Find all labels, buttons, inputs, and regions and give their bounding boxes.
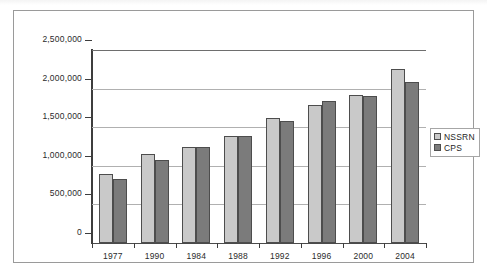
bar-nssrn-2000 bbox=[349, 95, 363, 243]
x-axis-label-1977: 1977 bbox=[92, 251, 134, 262]
y-axis-tick bbox=[85, 79, 92, 80]
y-axis-labels: 0500,0001,000,0001,500,0002,000,0002,500… bbox=[14, 11, 82, 264]
x-axis-label-1988: 1988 bbox=[217, 251, 259, 262]
x-axis-label-1984: 1984 bbox=[175, 251, 217, 262]
chart-frame: 0500,0001,000,0001,500,0002,000,0002,500… bbox=[13, 10, 474, 263]
bar-group bbox=[391, 50, 419, 243]
bar-cps-1996 bbox=[322, 101, 336, 243]
bar-group bbox=[224, 50, 252, 243]
y-axis-tick bbox=[85, 156, 92, 157]
legend-item-label: CPS bbox=[444, 143, 462, 153]
x-axis-tick bbox=[301, 243, 302, 248]
bar-nssrn-1988 bbox=[224, 136, 238, 243]
y-axis-tick-label: 0 bbox=[77, 228, 82, 237]
x-axis-tick bbox=[176, 243, 177, 248]
bar-cps-2000 bbox=[363, 96, 377, 243]
x-axis-tick bbox=[92, 243, 93, 248]
x-axis-labels: 19771990198419881992199620002004 bbox=[92, 251, 426, 265]
x-axis-tick bbox=[134, 243, 135, 248]
bar-cps-1977 bbox=[113, 179, 127, 243]
bar-group bbox=[99, 50, 127, 243]
bar-nssrn-1977 bbox=[99, 174, 113, 243]
legend-item-cps[interactable]: CPS bbox=[434, 142, 475, 153]
bar-cps-1988 bbox=[238, 136, 252, 243]
chart-legend: NSSRNCPS bbox=[430, 128, 480, 157]
bar-group bbox=[182, 50, 210, 243]
legend-swatch-icon bbox=[434, 144, 441, 151]
x-axis-tick bbox=[259, 243, 260, 248]
bar-cps-1992 bbox=[280, 121, 294, 243]
y-axis-tick bbox=[85, 117, 92, 118]
page-scan-band bbox=[0, 0, 487, 5]
bar-nssrn-1990 bbox=[141, 154, 155, 243]
y-axis-tick-label: 2,000,000 bbox=[42, 74, 82, 83]
y-axis-tick bbox=[85, 40, 92, 41]
x-axis-ticks bbox=[92, 243, 426, 249]
bar-nssrn-1992 bbox=[266, 118, 280, 243]
bar-nssrn-1984 bbox=[182, 147, 196, 243]
x-axis-label-1990: 1990 bbox=[134, 251, 176, 262]
y-axis-tick bbox=[85, 194, 92, 195]
y-axis-tick-label: 500,000 bbox=[50, 189, 82, 198]
bar-nssrn-1996 bbox=[308, 105, 322, 243]
x-axis-tick bbox=[217, 243, 218, 248]
bar-cps-2004 bbox=[405, 82, 419, 243]
x-axis-tick bbox=[384, 243, 385, 248]
legend-swatch-icon bbox=[434, 133, 441, 140]
y-axis-tick bbox=[85, 233, 92, 234]
legend-item-nssrn[interactable]: NSSRN bbox=[434, 131, 475, 142]
bar-group bbox=[266, 50, 294, 243]
bar-group bbox=[349, 50, 377, 243]
x-axis-label-1992: 1992 bbox=[259, 251, 301, 262]
bar-cps-1990 bbox=[155, 160, 169, 243]
bar-group bbox=[141, 50, 169, 243]
y-axis-tick-label: 2,500,000 bbox=[42, 35, 82, 44]
x-axis-label-1996: 1996 bbox=[301, 251, 343, 262]
y-axis-tick-label: 1,500,000 bbox=[42, 112, 82, 121]
bar-cps-1984 bbox=[196, 147, 210, 244]
x-axis-tick bbox=[426, 243, 427, 248]
bar-nssrn-2004 bbox=[391, 69, 405, 243]
x-axis-label-2004: 2004 bbox=[384, 251, 426, 262]
legend-item-label: NSSRN bbox=[444, 132, 475, 142]
x-axis-tick bbox=[343, 243, 344, 248]
y-axis-tick-label: 1,000,000 bbox=[42, 151, 82, 160]
bar-group bbox=[308, 50, 336, 243]
plot-area bbox=[92, 50, 426, 243]
x-axis-label-2000: 2000 bbox=[342, 251, 384, 262]
